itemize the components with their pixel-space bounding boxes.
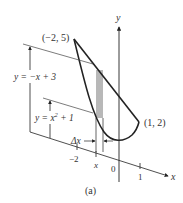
tick-label-x: x xyxy=(93,160,98,170)
upper-guide-line xyxy=(23,44,93,64)
tick-label-0: 0 xyxy=(111,164,116,174)
point-label-neg2-5: (−2, 5) xyxy=(42,32,69,44)
tick-label-neg2: −2 xyxy=(69,154,79,164)
lower-equation-label: y = x2 + 1 xyxy=(34,111,74,123)
tick-label-1: 1 xyxy=(138,172,143,182)
parabola-curve xyxy=(74,39,139,140)
delta-x-label: Δx xyxy=(70,136,82,146)
region-between-curves-diagram: y x −2 x 0 1 (−2, 5) (1, 2) y = −x + 3 y… xyxy=(0,0,183,203)
lower-guide-line xyxy=(43,98,93,113)
y-axis-label: y xyxy=(115,12,121,23)
point-label-1-2: (1, 2) xyxy=(144,117,166,129)
x-axis xyxy=(30,132,168,176)
upper-equation-label: y = −x + 3 xyxy=(13,72,56,82)
figure-caption: (a) xyxy=(85,185,96,197)
x-axis-label: x xyxy=(170,171,176,182)
representative-strip xyxy=(96,70,103,118)
